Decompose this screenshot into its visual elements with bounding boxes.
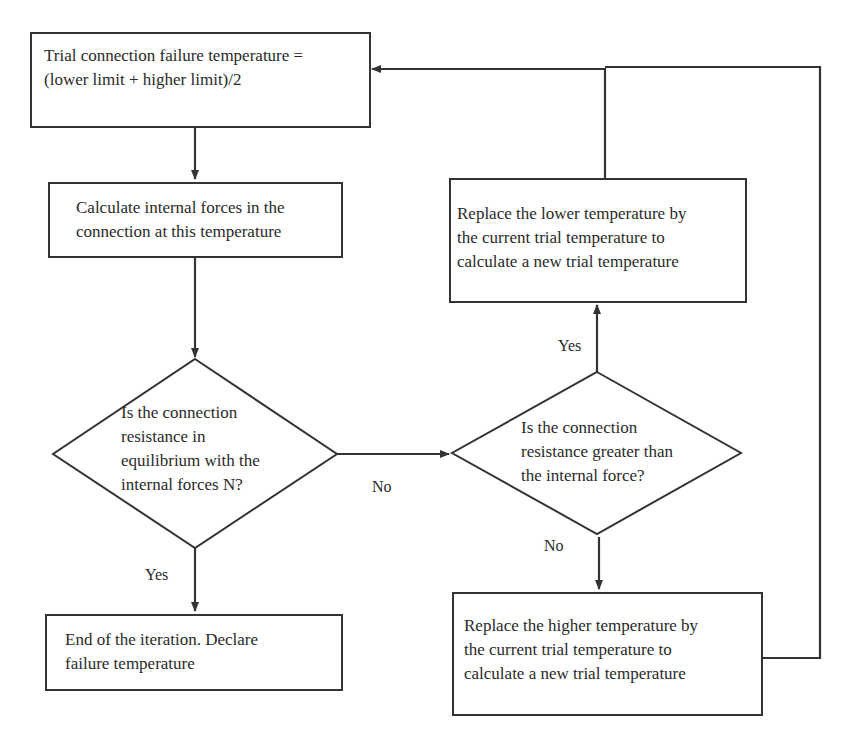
edge-label-greater-no: No — [544, 537, 564, 555]
equilibrium-question-text: Is the connection resistance in equilibr… — [121, 401, 260, 497]
calculate-forces-text: Calculate internal forces in the connect… — [76, 196, 341, 244]
trial-temperature-text: Trial connection failure temperature = (… — [44, 44, 369, 92]
edge-label-equilibrium-yes: Yes — [145, 566, 168, 584]
replace-higher-text: Replace the higher temperature by the cu… — [464, 614, 761, 686]
replace-higher-box: Replace the higher temperature by the cu… — [452, 592, 763, 716]
edge-label-greater-yes: Yes — [558, 337, 581, 355]
replace-lower-box: Replace the lower temperature by the cur… — [449, 178, 747, 303]
calculate-forces-box: Calculate internal forces in the connect… — [48, 182, 343, 258]
replace-lower-text: Replace the lower temperature by the cur… — [457, 202, 745, 274]
trial-temperature-box: Trial connection failure temperature = (… — [30, 32, 371, 128]
end-iteration-box: End of the iteration. Declare failure te… — [45, 614, 343, 691]
edge-label-equilibrium-no: No — [372, 478, 392, 496]
end-iteration-text: End of the iteration. Declare failure te… — [65, 628, 341, 676]
greater-question-text: Is the connection resistance greater tha… — [521, 416, 673, 488]
